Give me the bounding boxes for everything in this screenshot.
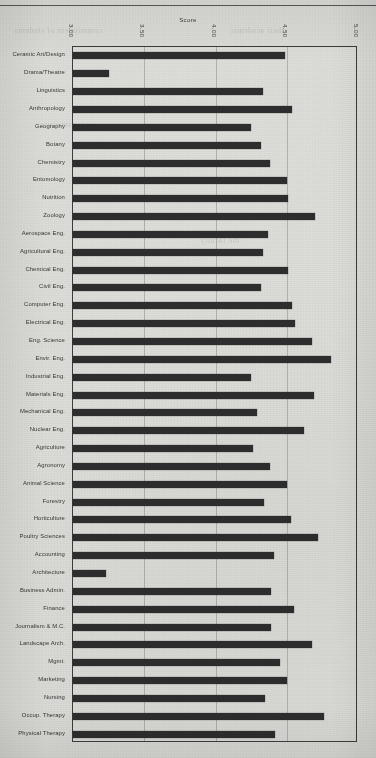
bar — [73, 160, 270, 167]
y-axis-label: Horticulture — [34, 515, 65, 522]
bar — [73, 249, 263, 256]
scanned-page: commitment of students their academic re… — [0, 0, 376, 758]
y-axis-category-labels: Ceramic Art/DesignDrama/TheatreLinguisti… — [0, 46, 68, 742]
bar-row — [73, 267, 356, 274]
y-axis-label: Accounting — [35, 551, 65, 558]
bar-row — [73, 516, 356, 523]
bar — [73, 588, 271, 595]
bar — [73, 481, 287, 488]
bar — [73, 534, 318, 541]
bar — [73, 231, 268, 238]
bar-row — [73, 481, 356, 488]
bar — [73, 124, 251, 131]
bar — [73, 713, 324, 720]
y-axis-label: Electrical Eng. — [26, 319, 65, 326]
y-axis-label: Drama/Theatre — [24, 69, 65, 76]
x-tick-label: 5.00 — [353, 24, 360, 38]
bar-row — [73, 624, 356, 631]
y-axis-label: Chemistry — [38, 159, 65, 166]
bar-row — [73, 463, 356, 470]
y-axis-label: Agricultural Eng. — [20, 248, 65, 255]
bar-row — [73, 124, 356, 131]
bar — [73, 106, 292, 113]
bar-row — [73, 70, 356, 77]
bar — [73, 213, 315, 220]
y-axis-label: Chemical Eng. — [25, 266, 65, 273]
bleed-through-text: their academic — [230, 26, 284, 35]
bar-row — [73, 302, 356, 309]
y-axis-label: Nuclear Eng. — [30, 426, 65, 433]
y-axis-label: Entomology — [33, 176, 65, 183]
bar — [73, 320, 295, 327]
bleed-through-text: commitment of students — [14, 26, 102, 35]
x-tick-label: 3.50 — [139, 24, 146, 38]
bar — [73, 552, 274, 559]
bar-row — [73, 213, 356, 220]
y-axis-label: Computer Eng. — [24, 301, 65, 308]
bar-row — [73, 534, 356, 541]
y-axis-label: Physical Therapy — [18, 730, 65, 737]
bar — [73, 677, 287, 684]
x-tick-label: 4.00 — [211, 24, 218, 38]
bar-row — [73, 606, 356, 613]
bar — [73, 177, 287, 184]
bar-row — [73, 338, 356, 345]
y-axis-label: Anthropology — [29, 105, 65, 112]
bar — [73, 606, 294, 613]
y-axis-label: Nursing — [44, 694, 65, 701]
bar-row — [73, 160, 356, 167]
y-axis-label: Mgmt. — [48, 658, 65, 665]
y-axis-label: Envir. Eng. — [35, 355, 65, 362]
y-axis-label: Poultry Sciences — [20, 533, 65, 540]
bar — [73, 52, 285, 59]
y-axis-label: Linguistics — [36, 87, 65, 94]
bar — [73, 624, 271, 631]
bar — [73, 356, 331, 363]
bar-row — [73, 374, 356, 381]
bar-row — [73, 320, 356, 327]
bar-row — [73, 677, 356, 684]
bar-row — [73, 392, 356, 399]
y-axis-label: Agronomy — [37, 462, 65, 469]
bar-row — [73, 356, 356, 363]
bar-row — [73, 249, 356, 256]
y-axis-label: Landscape Arch. — [20, 640, 65, 647]
chart-title: Score — [0, 16, 376, 23]
y-axis-label: Finance — [43, 605, 65, 612]
bar-row — [73, 427, 356, 434]
bar-row — [73, 731, 356, 738]
y-axis-label: Zoology — [43, 212, 65, 219]
bar — [73, 445, 253, 452]
bar — [73, 499, 264, 506]
bar — [73, 731, 275, 738]
y-axis-label: Eng. Science — [29, 337, 65, 344]
y-axis-label: Materials Eng. — [26, 391, 65, 398]
bar — [73, 409, 257, 416]
bar — [73, 267, 288, 274]
y-axis-label: Nutrition — [42, 194, 65, 201]
x-tick-label: 4.50 — [282, 24, 289, 38]
bar-row — [73, 106, 356, 113]
y-axis-label: Geography — [35, 123, 65, 130]
bar — [73, 284, 261, 291]
y-axis-label: Agriculture — [36, 444, 65, 451]
bar — [73, 374, 251, 381]
bar — [73, 70, 109, 77]
y-axis-label: Business Admin. — [20, 587, 65, 594]
bar-row — [73, 195, 356, 202]
y-axis-label: Forestry — [43, 498, 65, 505]
bar — [73, 302, 292, 309]
y-axis-label: Journalism & M.C. — [15, 623, 65, 630]
bar-series — [73, 47, 356, 741]
y-axis-label: Architecture — [32, 569, 65, 576]
bar — [73, 142, 261, 149]
bar — [73, 427, 304, 434]
y-axis-label: Civil Eng. — [39, 283, 65, 290]
y-axis-label: Ceramic Art/Design — [12, 51, 65, 58]
bar-row — [73, 445, 356, 452]
bar — [73, 463, 270, 470]
bar-row — [73, 713, 356, 720]
bar — [73, 195, 288, 202]
bar-row — [73, 284, 356, 291]
bar-row — [73, 409, 356, 416]
